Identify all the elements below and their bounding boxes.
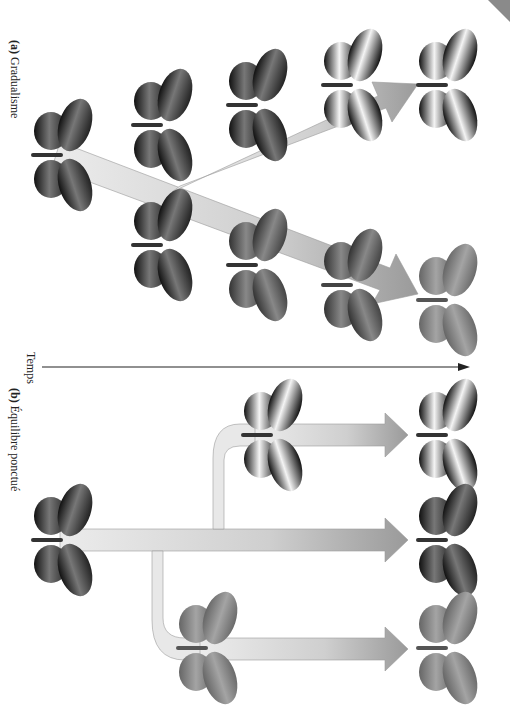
time-axis bbox=[42, 363, 470, 371]
gradualism-upper-arrow bbox=[172, 82, 418, 192]
panel-a-title: Gradualisme bbox=[8, 57, 22, 118]
punctuated-arrows bbox=[60, 413, 408, 671]
panel-b-title: Équilibre ponctué bbox=[8, 406, 22, 492]
punctuated-upper-branch-stem bbox=[213, 424, 260, 529]
butterfly-icon bbox=[226, 44, 294, 165]
butterfly-icon bbox=[131, 184, 199, 305]
panel-a-letter: (a) bbox=[8, 40, 22, 54]
panel-b-letter: (b) bbox=[8, 388, 22, 403]
diagram-canvas bbox=[0, 0, 510, 721]
butterfly-icon bbox=[416, 479, 484, 600]
punctuated-main-arrow bbox=[60, 518, 408, 562]
time-axis-arrowhead bbox=[458, 363, 470, 371]
butterfly-icon bbox=[416, 587, 484, 708]
time-axis-label: Temps bbox=[23, 352, 38, 384]
page-corner-fold bbox=[488, 0, 510, 22]
butterfly-icon bbox=[416, 24, 484, 145]
butterfly-icon bbox=[131, 64, 199, 185]
panel-b-label: (b) Équilibre ponctué bbox=[7, 388, 22, 491]
panel-a-label: (a) Gradualisme bbox=[7, 40, 22, 118]
butterfly-icon bbox=[416, 374, 484, 495]
butterfly-icon bbox=[416, 239, 484, 360]
evolution-diagram: (a) Gradualisme Temps (b) Équilibre ponc… bbox=[0, 0, 510, 721]
